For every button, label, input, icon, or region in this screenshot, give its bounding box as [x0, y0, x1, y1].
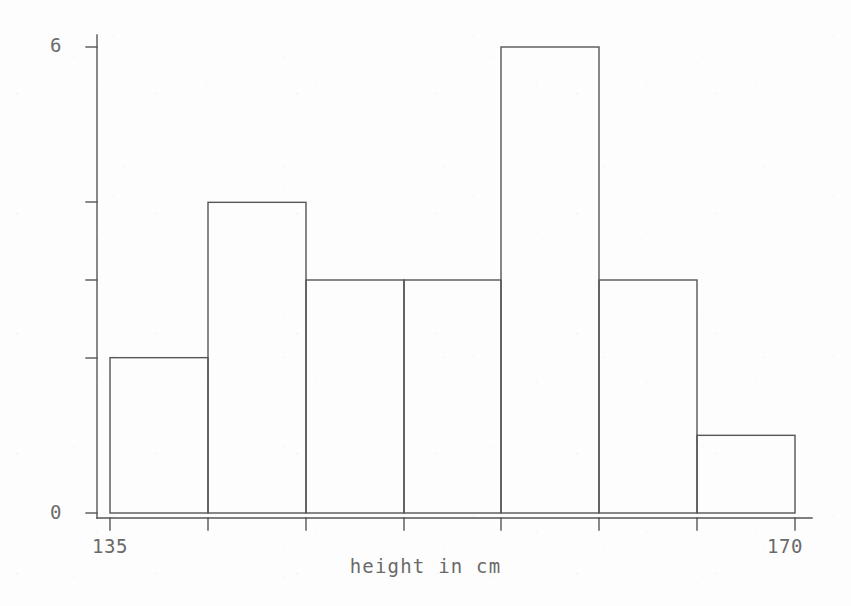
- histogram-bar: [306, 280, 404, 513]
- histogram-bar: [599, 280, 697, 513]
- histogram-bar: [404, 280, 501, 513]
- histogram-figure: 6 0 135 170 height in cm: [0, 0, 851, 606]
- histogram-bar: [110, 358, 208, 513]
- histogram-bar: [697, 435, 795, 513]
- x-axis-tick-label-right: 170: [767, 535, 803, 557]
- axes-group: [86, 35, 812, 530]
- y-axis-tick-label-top: 6: [50, 34, 62, 56]
- x-axis-ticks: [110, 518, 795, 530]
- x-axis-tick-label-left: 135: [92, 535, 128, 557]
- chart-svg: [0, 0, 851, 606]
- histogram-bar: [208, 202, 306, 513]
- x-axis-title: height in cm: [0, 555, 851, 577]
- histogram-bar: [501, 47, 599, 513]
- y-axis-ticks: [86, 47, 97, 513]
- plot-area: [0, 0, 851, 606]
- histogram-bars: [110, 47, 795, 513]
- y-axis-tick-label-bottom: 0: [50, 501, 62, 523]
